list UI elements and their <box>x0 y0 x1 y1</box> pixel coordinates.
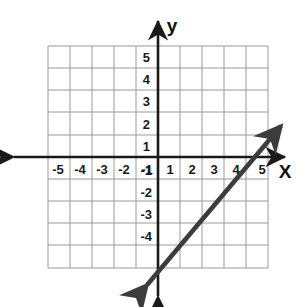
y-tick-label: 3 <box>143 94 150 109</box>
x-tick-label: 2 <box>188 162 195 177</box>
x-axis-label: X <box>279 161 292 182</box>
y-tick-label: -3 <box>140 207 152 222</box>
x-tick-label: -4 <box>74 162 86 177</box>
plotted-line <box>147 126 281 285</box>
y-tick-label: 1 <box>143 139 150 154</box>
x-tick-label: -3 <box>96 162 108 177</box>
x-tick-label: -2 <box>118 162 130 177</box>
y-tick-label: -1 <box>140 163 152 178</box>
coordinate-plane-figure: y X -5 -4 -3 -2 -1 1 2 3 4 5 5 4 3 2 1 -… <box>0 0 298 307</box>
x-tick-label: 1 <box>166 162 173 177</box>
x-tick-label: 4 <box>232 162 240 177</box>
x-tick-label: 3 <box>210 162 217 177</box>
y-tick-label: 5 <box>143 50 150 65</box>
x-tick-label: 5 <box>258 162 265 177</box>
graph-canvas: y X -5 -4 -3 -2 -1 1 2 3 4 5 5 4 3 2 1 -… <box>0 0 298 307</box>
y-tick-label: 2 <box>143 117 150 132</box>
y-tick-label: -4 <box>140 229 152 244</box>
y-tick-label: 4 <box>143 72 151 87</box>
y-tick-label: -2 <box>140 185 152 200</box>
x-tick-label: -5 <box>52 162 64 177</box>
y-axis-label: y <box>167 15 178 36</box>
